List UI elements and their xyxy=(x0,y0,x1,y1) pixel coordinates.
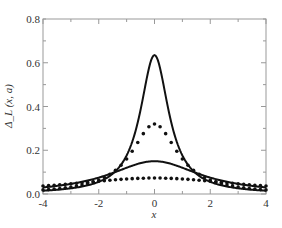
series-marker xyxy=(242,186,246,190)
series-marker xyxy=(91,180,95,184)
y-tick-label: 0.2 xyxy=(26,144,40,156)
series-marker xyxy=(142,176,146,180)
series-marker xyxy=(203,179,207,183)
series-marker xyxy=(153,176,157,180)
series-marker xyxy=(208,179,212,183)
tick-labels: -4-20240.00.20.40.60.8 xyxy=(26,13,269,209)
series-marker xyxy=(164,132,168,136)
series-marker xyxy=(147,125,151,129)
series-marker xyxy=(86,180,90,184)
series-marker xyxy=(97,179,101,183)
series-marker xyxy=(147,176,151,180)
series-marker xyxy=(47,184,51,188)
series-marker xyxy=(108,178,112,182)
series-marker xyxy=(175,177,179,181)
series-marker xyxy=(247,187,251,191)
series-marker xyxy=(192,178,196,182)
chart: -4-20240.00.20.40.60.8 x Δ_L (x, a) xyxy=(0,0,282,228)
series-marker xyxy=(169,177,173,181)
series-marker xyxy=(41,184,45,188)
series-marker xyxy=(264,188,268,192)
series-marker xyxy=(220,180,224,184)
series-marker xyxy=(114,178,118,182)
x-tick-label: -2 xyxy=(94,197,103,209)
series-marker xyxy=(64,182,68,186)
x-axis-label: x xyxy=(151,208,157,220)
series-marker xyxy=(264,184,268,188)
series-marker xyxy=(119,164,123,168)
series-marker xyxy=(52,187,56,191)
y-tick-label: 0.0 xyxy=(26,188,40,200)
x-tick-label: 4 xyxy=(263,197,269,209)
series-marker xyxy=(47,188,51,192)
series-marker xyxy=(103,179,107,183)
series-marker xyxy=(69,182,73,186)
series-marker xyxy=(164,176,168,180)
series-marker xyxy=(253,187,257,191)
x-tick-label: 2 xyxy=(208,197,214,209)
series-marker xyxy=(181,177,185,181)
series-marker xyxy=(125,157,129,161)
series-marker xyxy=(169,141,173,145)
plot-frame xyxy=(43,19,266,194)
series-marker xyxy=(259,188,263,192)
series-marker xyxy=(231,181,235,185)
series-marker xyxy=(136,141,140,145)
series-marker xyxy=(58,187,62,191)
series-marker xyxy=(181,157,185,161)
y-tick-label: 0.4 xyxy=(26,101,40,113)
series-marker xyxy=(64,186,68,190)
series-marker xyxy=(69,185,73,189)
series-marker xyxy=(186,164,190,168)
y-tick-label: 0.8 xyxy=(26,13,40,25)
series-marker xyxy=(253,183,257,187)
series-marker xyxy=(236,185,240,189)
series-marker xyxy=(41,188,45,192)
axis-ticks xyxy=(43,19,266,194)
series-marker xyxy=(58,183,62,187)
series-marker xyxy=(153,122,157,126)
series-marker xyxy=(125,177,129,181)
series-marker xyxy=(130,150,134,154)
series-marker xyxy=(259,184,263,188)
series-marker xyxy=(130,177,134,181)
series-marker xyxy=(119,178,123,182)
series-marker xyxy=(247,183,251,187)
series-marker xyxy=(158,176,162,180)
series-marker xyxy=(158,125,162,129)
series-marker xyxy=(80,181,84,185)
series-marker xyxy=(142,132,146,136)
series-marker xyxy=(197,178,201,182)
y-axis-label: Δ_L (x, a) xyxy=(2,84,15,129)
y-tick-label: 0.6 xyxy=(26,57,40,69)
series-marker xyxy=(175,150,179,154)
data-series xyxy=(41,55,268,192)
series-marker xyxy=(52,183,56,187)
series-marker xyxy=(236,182,240,186)
series-marker xyxy=(225,181,229,185)
series-marker xyxy=(136,177,140,181)
series-marker xyxy=(242,182,246,186)
series-marker xyxy=(214,180,218,184)
series-marker xyxy=(186,178,190,182)
series-marker xyxy=(75,181,79,185)
